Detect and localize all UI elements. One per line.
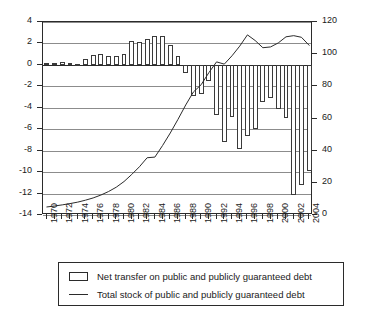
x-tick-1970	[46, 214, 47, 219]
y-tick-left--6	[37, 128, 42, 129]
y-axis-left-label--12: -12	[6, 188, 32, 197]
y-tick-left-0	[37, 64, 42, 65]
x-tick-1988	[185, 214, 186, 219]
x-axis-label-2004: 2004	[312, 203, 321, 223]
x-tick-1996	[246, 214, 247, 219]
plot-area	[42, 21, 312, 214]
x-axis-label-1974: 1974	[81, 203, 90, 223]
x-axis-label-1998: 1998	[266, 203, 275, 223]
x-tick-1977	[100, 214, 101, 219]
x-axis-label-1972: 1972	[65, 203, 74, 223]
y-axis-right-label-60: 60	[322, 113, 350, 122]
y-tick-right-120	[312, 21, 317, 22]
y-axis-left-label--14: -14	[6, 209, 32, 218]
y-axis-left-label-4: 4	[6, 16, 32, 25]
y-axis-right-label-20: 20	[322, 177, 350, 186]
y-axis-right-label-0: 0	[322, 209, 350, 218]
y-axis-right-label-100: 100	[322, 48, 350, 57]
x-axis-label-1976: 1976	[96, 203, 105, 223]
x-tick-1972	[61, 214, 62, 219]
y-tick-left-2	[37, 42, 42, 43]
x-tick-1973	[69, 214, 70, 219]
x-tick-1980	[123, 214, 124, 219]
y-tick-right-20	[312, 182, 317, 183]
x-tick-1985	[162, 214, 163, 219]
x-tick-2000	[277, 214, 278, 219]
x-tick-1971	[54, 214, 55, 219]
x-tick-1981	[131, 214, 132, 219]
x-axis-label-1994: 1994	[235, 203, 244, 223]
x-tick-1997	[254, 214, 255, 219]
x-axis-label-1982: 1982	[142, 203, 151, 223]
y-axis-right-label-120: 120	[322, 16, 350, 25]
x-tick-1991	[208, 214, 209, 219]
x-axis-label-1978: 1978	[112, 203, 121, 223]
x-tick-2001	[285, 214, 286, 219]
line-series	[43, 22, 311, 213]
y-tick-right-100	[312, 53, 317, 54]
y-axis-left-label--8: -8	[6, 145, 32, 154]
x-tick-1987	[177, 214, 178, 219]
x-axis-label-2000: 2000	[281, 203, 290, 223]
y-axis-left-label-0: 0	[6, 59, 32, 68]
legend-box-swatch-icon	[69, 272, 88, 281]
legend-item-net-transfer: Net transfer on public and publicly guar…	[69, 269, 312, 283]
chart-legend: Net transfer on public and publicly guar…	[58, 262, 344, 306]
x-tick-1999	[270, 214, 271, 219]
legend-label-total-stock: Total stock of public and publicly guara…	[97, 289, 305, 300]
y-axis-right-label-80: 80	[322, 80, 350, 89]
x-tick-2003	[300, 214, 301, 219]
x-tick-1979	[115, 214, 116, 219]
x-tick-1975	[84, 214, 85, 219]
x-axis-label-1992: 1992	[220, 203, 229, 223]
y-tick-left--14	[37, 214, 42, 215]
y-tick-left--10	[37, 171, 42, 172]
x-tick-1998	[262, 214, 263, 219]
y-tick-left--2	[37, 85, 42, 86]
y-tick-left-4	[37, 21, 42, 22]
x-tick-1993	[223, 214, 224, 219]
x-axis-label-2002: 2002	[297, 203, 306, 223]
x-tick-1984	[154, 214, 155, 219]
y-tick-right-40	[312, 150, 317, 151]
x-tick-1994	[231, 214, 232, 219]
y-axis-left-label--6: -6	[6, 123, 32, 132]
x-tick-1986	[169, 214, 170, 219]
x-tick-1976	[92, 214, 93, 219]
y-axis-left-label--10: -10	[6, 166, 32, 175]
x-tick-1982	[138, 214, 139, 219]
x-tick-1983	[146, 214, 147, 219]
x-axis-label-1990: 1990	[204, 203, 213, 223]
legend-line-swatch-icon	[69, 294, 88, 295]
x-tick-1978	[108, 214, 109, 219]
x-axis-label-1984: 1984	[158, 203, 167, 223]
chart-figure: 420-2-4-6-8-10-12-14 120100806040200 197…	[0, 0, 376, 315]
x-axis-label-1970: 1970	[50, 203, 59, 223]
y-tick-left--8	[37, 150, 42, 151]
x-axis-label-1988: 1988	[189, 203, 198, 223]
x-axis-label-1996: 1996	[250, 203, 259, 223]
line-path	[47, 35, 309, 207]
x-tick-1974	[77, 214, 78, 219]
legend-item-total-stock: Total stock of public and publicly guara…	[69, 287, 305, 301]
x-tick-1990	[200, 214, 201, 219]
y-tick-left--12	[37, 193, 42, 194]
x-tick-1989	[192, 214, 193, 219]
y-axis-left-label-2: 2	[6, 37, 32, 46]
x-tick-2004	[308, 214, 309, 219]
y-axis-right-label-40: 40	[322, 145, 350, 154]
x-tick-1995	[239, 214, 240, 219]
y-axis-left-label--2: -2	[6, 80, 32, 89]
x-tick-1992	[216, 214, 217, 219]
y-tick-right-60	[312, 118, 317, 119]
y-tick-left--4	[37, 107, 42, 108]
y-tick-right-80	[312, 85, 317, 86]
legend-label-net-transfer: Net transfer on public and publicly guar…	[97, 271, 312, 282]
y-axis-left-label--4: -4	[6, 102, 32, 111]
x-axis-label-1986: 1986	[173, 203, 182, 223]
x-axis-label-1980: 1980	[127, 203, 136, 223]
x-tick-2002	[293, 214, 294, 219]
